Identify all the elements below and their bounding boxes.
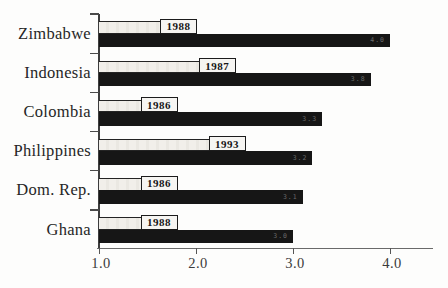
faint-bar-value-label: 4.0	[370, 37, 390, 44]
value-bar: 3.0	[99, 230, 293, 244]
survey-year-box: 1986	[141, 97, 178, 112]
value-bar: 3.2	[99, 151, 312, 165]
x-axis-tick-label: 1.0	[79, 255, 123, 272]
survey-year-box: 1993	[209, 136, 246, 151]
category-divider-tick	[90, 131, 99, 132]
x-axis-tick	[390, 248, 391, 254]
x-axis-line	[97, 248, 433, 249]
survey-year-box: 1988	[160, 19, 197, 34]
faint-bar-value-label: 3.1	[283, 194, 303, 201]
value-bar: 3.1	[99, 190, 303, 204]
survey-year-box: 1988	[141, 215, 178, 230]
x-axis-tick-label: 4.0	[370, 255, 414, 272]
faint-bar-value-label: 3.0	[273, 233, 293, 240]
faint-bar-value-label: 3.2	[293, 155, 313, 162]
category-divider-tick	[90, 13, 99, 14]
country-label: Zimbabwe	[0, 23, 91, 43]
faint-bar-value-label: 3.3	[302, 116, 322, 123]
category-divider-tick	[90, 209, 99, 210]
country-label: Colombia	[0, 102, 91, 122]
country-label: Philippines	[0, 141, 91, 161]
value-bar: 4.0	[99, 34, 390, 48]
country-label: Dom. Rep.	[0, 180, 91, 200]
survey-year-box: 1987	[199, 58, 236, 73]
country-label: Ghana	[0, 219, 91, 239]
category-divider-tick	[90, 92, 99, 93]
bar-chart-figure: Zimbabwe19884.0Indonesia19873.8Colombia1…	[0, 0, 448, 288]
survey-year-box: 1986	[141, 176, 178, 191]
x-axis-tick-label: 3.0	[273, 255, 317, 272]
x-axis-tick	[196, 248, 197, 254]
value-bar: 3.8	[99, 73, 371, 87]
x-axis-tick	[293, 248, 294, 254]
country-label: Indonesia	[0, 62, 91, 82]
category-divider-tick	[90, 170, 99, 171]
faint-bar-value-label: 3.8	[351, 76, 371, 83]
category-divider-tick	[90, 53, 99, 54]
x-axis-tick	[99, 248, 100, 254]
value-bar: 3.3	[99, 112, 322, 126]
x-axis-tick-label: 2.0	[176, 255, 220, 272]
